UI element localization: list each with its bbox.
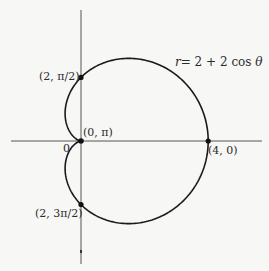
equation-theta: θ [255, 55, 263, 69]
point-marker-right [206, 138, 211, 143]
point-label-right: (4, 0) [208, 144, 238, 157]
cardioid-figure: (2, π/2) (0, π) (4, 0) (2, 3π/2) 0 r= 2 … [0, 0, 269, 271]
point-label-top: (2, π/2) [39, 70, 80, 83]
equation-label: r= 2 + 2 cos θ [175, 55, 263, 69]
pole-label: 0 [63, 142, 70, 155]
point-marker-pole [78, 138, 84, 144]
point-label-bottom: (2, 3π/2) [35, 207, 83, 220]
point-label-pole: (0, π) [83, 126, 113, 139]
equation-rhs: = 2 + 2 cos [181, 55, 256, 69]
axis-tick-mark [80, 250, 82, 253]
